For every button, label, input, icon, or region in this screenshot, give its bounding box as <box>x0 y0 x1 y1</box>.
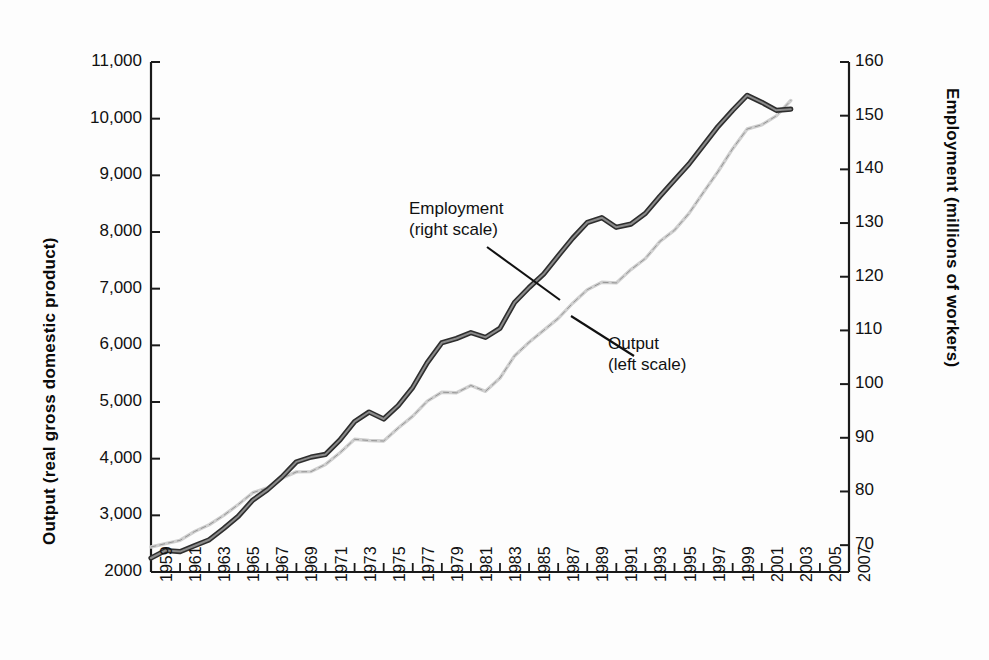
bottom-tick-label: 1959 <box>158 546 176 582</box>
left-tick-label: 11,000 <box>20 51 142 71</box>
right-tick-label: 150 <box>855 105 883 125</box>
left-tick-label: 3,000 <box>20 504 142 524</box>
series-line-employment-outline <box>151 95 791 558</box>
right-tick-label: 130 <box>855 212 883 232</box>
right-tick-label: 160 <box>855 51 883 71</box>
right-tick-label: 100 <box>855 373 883 393</box>
chart-figure: Output (real gross domestic product) Emp… <box>0 0 989 660</box>
bottom-tick-label: 2007 <box>856 546 874 582</box>
bottom-tick-label: 1971 <box>333 546 351 582</box>
left-tick-label: 7,000 <box>20 278 142 298</box>
series-line-output-edge <box>151 101 791 548</box>
left-axis-ticks <box>151 62 160 572</box>
bottom-tick-label: 1965 <box>245 546 263 582</box>
left-tick-label: 6,000 <box>20 334 142 354</box>
bottom-tick-label: 1967 <box>274 546 292 582</box>
bottom-tick-label: 1979 <box>449 546 467 582</box>
bottom-tick-label: 1997 <box>711 546 729 582</box>
bottom-tick-label: 1993 <box>652 546 670 582</box>
bottom-tick-label: 1995 <box>682 546 700 582</box>
bottom-tick-label: 1975 <box>391 546 409 582</box>
right-tick-label: 120 <box>855 266 883 286</box>
annotation-employment-line2: (right scale) <box>409 219 503 240</box>
right-tick-label: 140 <box>855 158 883 178</box>
right-tick-label: 90 <box>855 427 874 447</box>
bottom-tick-label: 2003 <box>798 546 816 582</box>
bottom-tick-label: 1989 <box>594 546 612 582</box>
bottom-tick-label: 1991 <box>623 546 641 582</box>
annotation-employment: Employment (right scale) <box>409 198 503 241</box>
annotation-output: Output (left scale) <box>608 333 686 376</box>
left-tick-label: 9,000 <box>20 164 142 184</box>
series-line-employment <box>151 95 791 558</box>
bottom-tick-label: 1977 <box>420 546 438 582</box>
right-tick-label: 80 <box>855 480 874 500</box>
right-axis-ticks <box>840 62 849 545</box>
bottom-tick-label: 1983 <box>507 546 525 582</box>
bottom-tick-label: 1973 <box>362 546 380 582</box>
bottom-tick-label: 1961 <box>187 546 205 582</box>
bottom-tick-label: 2001 <box>769 546 787 582</box>
bottom-tick-label: 1985 <box>536 546 554 582</box>
annotation-output-line2: (left scale) <box>608 354 686 375</box>
left-tick-label: 5,000 <box>20 391 142 411</box>
bottom-tick-label: 1987 <box>565 546 583 582</box>
bottom-tick-label: 1999 <box>740 546 758 582</box>
left-tick-label: 2000 <box>20 561 142 581</box>
left-tick-label: 8,000 <box>20 221 142 241</box>
right-tick-label: 110 <box>855 319 882 339</box>
series-line-output <box>151 101 791 548</box>
left-tick-label: 4,000 <box>20 448 142 468</box>
annotation-employment-line1: Employment <box>409 198 503 219</box>
bottom-tick-label: 1963 <box>216 546 234 582</box>
annotation-output-line1: Output <box>608 333 686 354</box>
bottom-tick-label: 1969 <box>303 546 321 582</box>
bottom-tick-label: 1981 <box>478 546 496 582</box>
bottom-tick-label: 2005 <box>827 546 845 582</box>
left-tick-label: 10,000 <box>20 108 142 128</box>
